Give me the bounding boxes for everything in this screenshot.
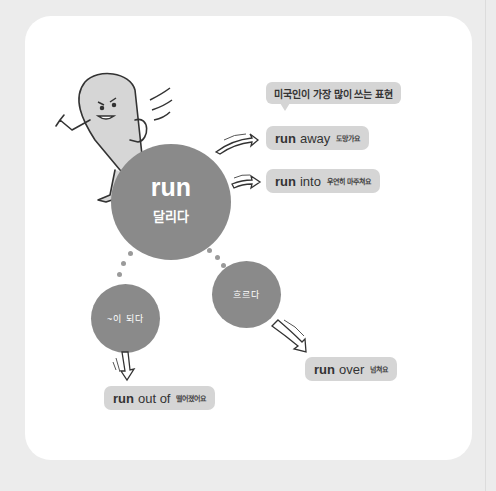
center-meaning: 달리다 <box>153 206 189 225</box>
connector-dot <box>121 261 126 266</box>
expression-run-out-of: run out of 떨어졌어요 <box>104 386 215 410</box>
expression-run-into: run into 우연히 마주쳐요 <box>266 169 380 193</box>
sub-node-become: ~이 되다 <box>91 284 160 353</box>
expression-verb: run <box>314 362 335 377</box>
expression-particle: out of <box>138 391 171 406</box>
expression-particle: away <box>300 131 330 146</box>
expression-verb: run <box>113 391 134 406</box>
arrow-down-icon <box>112 350 138 382</box>
expression-meaning: 우연히 마주쳐요 <box>327 176 371 186</box>
connector-dot <box>207 248 212 253</box>
arrow-right-icon <box>230 172 262 190</box>
center-node: run 달리다 <box>111 144 231 260</box>
arrow-right-icon <box>214 132 260 156</box>
page-edge <box>485 0 486 491</box>
expression-particle: into <box>300 174 321 189</box>
expression-verb: run <box>275 131 296 146</box>
expression-particle: over <box>339 362 364 377</box>
title-speech-bubble: 미국인이 가장 많이 쓰는 표현 <box>266 82 401 104</box>
connector-dot <box>215 255 220 260</box>
arrow-down-right-icon <box>270 318 312 354</box>
expression-meaning: 떨어졌어요 <box>176 393 206 403</box>
expression-run-away: run away 도망가요 <box>266 126 369 150</box>
expression-meaning: 도망가요 <box>336 133 360 143</box>
connector-dot <box>117 272 122 277</box>
connector-dot <box>128 251 133 256</box>
expression-meaning: 넘쳐요 <box>370 364 388 374</box>
sub-node-label: 흐르다 <box>233 288 260 301</box>
expression-verb: run <box>275 174 296 189</box>
expression-run-over: run over 넘쳐요 <box>305 357 397 381</box>
sub-node-label: ~이 되다 <box>107 312 144 325</box>
center-word: run <box>151 174 191 200</box>
